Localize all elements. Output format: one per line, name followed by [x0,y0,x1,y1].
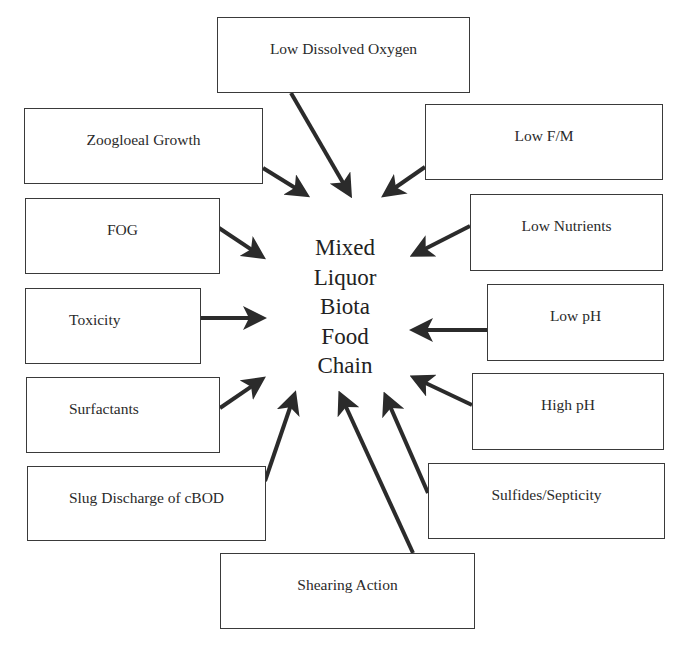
arrow-zoogloeal-growth [263,168,305,194]
factor-box-zoogloeal-growth: Zoogloeal Growth [24,108,263,184]
factor-box-toxicity: Toxicity [25,288,201,364]
arrow-low-dissolved-oxygen [291,93,349,193]
factor-label: High pH [473,396,663,414]
factor-label: Zoogloeal Growth [25,131,262,149]
factor-label: Shearing Action [221,576,474,594]
arrow-slug-discharge [265,396,294,481]
factor-label: Low Nutrients [471,217,662,235]
factor-label: Low Dissolved Oxygen [218,40,469,58]
factor-label: Surfactants [69,400,219,418]
factor-box-low-nutrients: Low Nutrients [470,194,663,271]
factor-box-surfactants: Surfactants [26,377,220,453]
factor-box-low-f-m: Low F/M [425,104,663,180]
factor-box-sulfides-septicity: Sulfides/Septicity [428,463,665,539]
center-line: Chain [285,351,405,381]
center-line: Biota [285,292,405,322]
center-line: Mixed [285,233,405,263]
factor-label: Low pH [488,307,663,325]
arrow-surfactants [220,380,261,408]
factor-box-low-ph: Low pH [487,284,664,361]
factor-box-fog: FOG [25,198,220,274]
factor-label: Slug Discharge of cBOD [28,489,265,507]
arrow-sulfides-septicity [386,397,428,493]
center-line: Food [285,322,405,352]
factor-label: Sulfides/Septicity [429,486,664,504]
factor-label: Toxicity [69,311,200,329]
arrow-fog [219,228,261,256]
arrow-low-f-m [386,167,425,194]
factor-box-slug-discharge: Slug Discharge of cBOD [27,466,266,541]
center-node-mixed-liquor-biota-food-chain: Mixed Liquor Biota Food Chain [285,233,405,381]
arrow-shearing-action [341,396,413,553]
factor-box-high-ph: High pH [472,373,664,450]
arrow-high-ph [415,378,472,405]
center-line: Liquor [285,263,405,293]
factor-box-shearing-action: Shearing Action [220,553,475,629]
factor-label: FOG [26,221,219,239]
arrow-low-nutrients [415,226,470,254]
factor-box-low-dissolved-oxygen: Low Dissolved Oxygen [217,17,470,93]
factor-label: Low F/M [426,127,662,145]
